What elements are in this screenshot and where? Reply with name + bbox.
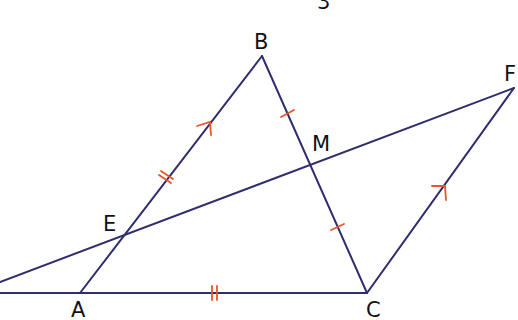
point-label-f: F xyxy=(504,64,516,85)
segment-cf xyxy=(367,88,514,293)
segment-ab xyxy=(80,56,262,293)
point-label-a: A xyxy=(71,300,85,320)
line-ef xyxy=(0,88,514,282)
top-label: 3 xyxy=(317,0,330,13)
segment-bc xyxy=(262,56,367,293)
point-label-b: B xyxy=(254,32,268,53)
point-label-e: E xyxy=(103,214,116,235)
point-label-c: C xyxy=(366,300,381,320)
point-label-m: M xyxy=(312,134,330,155)
